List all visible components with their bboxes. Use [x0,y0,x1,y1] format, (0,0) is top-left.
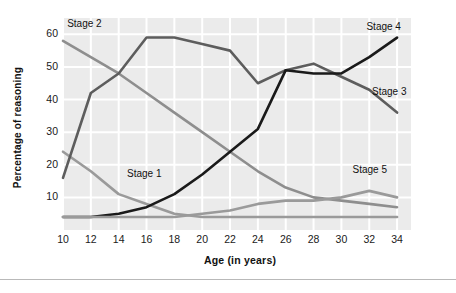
y-tick-label: 60 [34,27,58,39]
y-tick-label: 10 [34,190,58,202]
chart-figure: 60 50 40 30 20 10 1012141618202224262830… [0,0,456,293]
x-tick-label: 34 [384,233,410,245]
x-tick-label: 20 [189,233,215,245]
series-label-stage-3: Stage 3 [372,86,406,97]
y-axis-ticks: 60 50 40 30 20 10 [32,0,58,293]
y-tick-label: 30 [34,125,58,137]
x-tick-label: 14 [106,233,132,245]
bottom-divider [0,279,456,280]
x-tick-label: 16 [134,233,160,245]
series-label-stage-5: Stage 5 [353,164,387,175]
x-tick-label: 22 [217,233,243,245]
y-tick-label: 40 [34,93,58,105]
x-tick-label: 28 [301,233,327,245]
x-tick-label: 12 [78,233,104,245]
y-tick-label: 20 [34,158,58,170]
series-label-stage-4: Stage 4 [366,21,400,32]
y-axis-title: Percentage of reasoning [12,38,23,218]
line-chart-plot [0,0,456,293]
x-tick-label: 30 [328,233,354,245]
x-tick-label: 32 [356,233,382,245]
x-tick-label: 24 [245,233,271,245]
x-tick-label: 10 [50,233,76,245]
x-axis-title: Age (in years) [70,254,410,266]
y-tick-label: 50 [34,60,58,72]
x-tick-label: 26 [273,233,299,245]
series-label-stage-2: Stage 2 [67,18,101,29]
series-label-stage-1: Stage 1 [127,168,161,179]
x-tick-label: 18 [161,233,187,245]
